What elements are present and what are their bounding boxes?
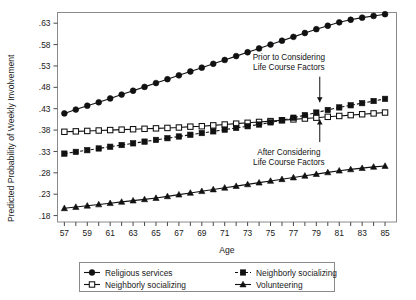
data-point bbox=[382, 11, 388, 17]
data-point bbox=[62, 151, 67, 156]
data-point bbox=[165, 125, 170, 130]
data-point bbox=[325, 114, 330, 119]
data-point bbox=[130, 141, 135, 146]
data-point bbox=[245, 124, 250, 129]
data-point bbox=[85, 147, 90, 152]
data-point bbox=[348, 103, 353, 108]
data-point bbox=[199, 130, 204, 135]
data-point bbox=[119, 92, 125, 98]
legend-marker bbox=[240, 270, 245, 275]
data-point bbox=[176, 72, 182, 78]
data-point bbox=[245, 49, 251, 55]
data-point bbox=[130, 127, 135, 132]
data-point bbox=[302, 112, 307, 117]
annotation-text: Life Course Factors bbox=[253, 63, 324, 72]
data-point bbox=[314, 115, 319, 120]
data-point bbox=[153, 126, 158, 131]
data-point bbox=[279, 118, 284, 123]
x-tick-label: 59 bbox=[83, 228, 93, 238]
data-point bbox=[371, 13, 377, 19]
data-point bbox=[142, 139, 147, 144]
data-point bbox=[313, 26, 319, 32]
data-point bbox=[153, 80, 159, 86]
data-point bbox=[348, 17, 354, 23]
data-point bbox=[62, 129, 67, 134]
y-tick-label: .53 bbox=[39, 61, 51, 71]
data-point bbox=[211, 129, 216, 134]
data-point bbox=[371, 98, 376, 103]
x-axis-title: Age bbox=[219, 245, 235, 255]
x-axis-ticks: 575961636567697173757779818385 bbox=[60, 222, 390, 238]
data-point bbox=[119, 127, 124, 132]
data-point bbox=[153, 137, 158, 142]
data-point bbox=[336, 19, 342, 25]
chart-svg: Predicted Probability of Weekly Involvem… bbox=[0, 0, 416, 300]
data-point bbox=[359, 100, 364, 105]
data-point bbox=[337, 105, 342, 110]
data-point bbox=[165, 76, 171, 82]
annotation-text: After Considering bbox=[257, 148, 321, 157]
data-point bbox=[142, 84, 148, 90]
x-tick-label: 83 bbox=[357, 228, 367, 238]
x-tick-label: 65 bbox=[151, 228, 161, 238]
data-point bbox=[96, 146, 101, 151]
data-point bbox=[222, 127, 227, 132]
data-point bbox=[130, 88, 136, 94]
data-point bbox=[314, 110, 319, 115]
data-point bbox=[188, 124, 193, 129]
annotation-text: Life Course Factors bbox=[253, 158, 324, 167]
x-tick-label: 67 bbox=[174, 228, 184, 238]
data-point bbox=[233, 125, 238, 130]
data-point bbox=[268, 120, 273, 125]
data-point bbox=[107, 144, 112, 149]
data-point bbox=[268, 42, 274, 48]
data-point bbox=[119, 142, 124, 147]
data-point bbox=[348, 112, 353, 117]
data-point bbox=[279, 38, 285, 44]
x-tick-label: 75 bbox=[266, 228, 276, 238]
y-tick-label: .58 bbox=[39, 40, 51, 50]
data-point bbox=[61, 111, 67, 117]
data-point bbox=[199, 124, 204, 129]
legend-label: Religious services bbox=[105, 268, 173, 278]
y-tick-label: .38 bbox=[39, 125, 51, 135]
data-point bbox=[302, 30, 308, 36]
data-point bbox=[96, 128, 101, 133]
data-point bbox=[107, 96, 113, 102]
data-point bbox=[233, 53, 239, 59]
data-point bbox=[188, 132, 193, 137]
x-tick-label: 69 bbox=[197, 228, 207, 238]
data-point bbox=[371, 111, 376, 116]
data-point bbox=[291, 34, 297, 40]
data-point bbox=[73, 149, 78, 154]
data-point bbox=[291, 115, 296, 120]
y-axis-title: Predicted Probability of Weekly Involvem… bbox=[6, 54, 16, 222]
annotation-text: Prior to Considering bbox=[253, 53, 326, 62]
data-point bbox=[382, 96, 387, 101]
data-point bbox=[176, 125, 181, 130]
data-point bbox=[210, 61, 216, 67]
x-tick-label: 79 bbox=[312, 228, 322, 238]
legend-label: Volunteering bbox=[256, 280, 303, 290]
data-point bbox=[359, 112, 364, 117]
data-point bbox=[325, 23, 331, 29]
y-tick-label: .18 bbox=[39, 211, 51, 221]
x-tick-label: 85 bbox=[380, 228, 390, 238]
y-tick-label: .48 bbox=[39, 82, 51, 92]
data-point bbox=[85, 128, 90, 133]
legend-marker bbox=[89, 270, 95, 276]
data-point bbox=[96, 99, 102, 105]
data-point bbox=[73, 129, 78, 134]
data-point bbox=[222, 122, 227, 127]
data-point bbox=[73, 107, 79, 113]
y-axis-ticks: .18.23.28.33.38.43.48.53.58.63 bbox=[39, 18, 58, 220]
x-tick-label: 73 bbox=[243, 228, 253, 238]
x-tick-label: 71 bbox=[220, 228, 230, 238]
legend-label: Neighborly socializing bbox=[256, 268, 337, 278]
data-point bbox=[211, 123, 216, 128]
data-point bbox=[325, 107, 330, 112]
data-point bbox=[176, 134, 181, 139]
plot-area-frame bbox=[58, 13, 397, 223]
y-tick-label: .28 bbox=[39, 168, 51, 178]
data-point bbox=[165, 136, 170, 141]
